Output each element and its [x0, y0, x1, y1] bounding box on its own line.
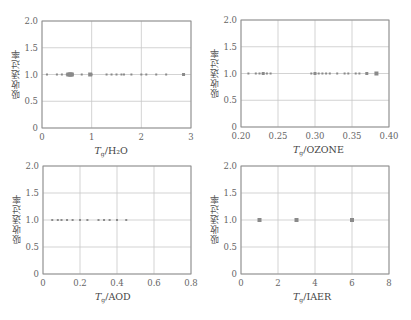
- data-point: [295, 218, 299, 222]
- y-tick-label: 1.0: [223, 215, 237, 225]
- x-tick-label: 8: [386, 278, 391, 288]
- data-point: [350, 218, 354, 222]
- y-tick-label: 1.5: [223, 188, 237, 198]
- x-axis-label: Tg/IAER: [293, 291, 331, 303]
- y-axis-label: 吸收透过率: [207, 194, 220, 244]
- data-point: [258, 218, 262, 222]
- x-tick-label: 2: [275, 278, 280, 288]
- plot-area-iaer: 00.51.01.52.002468: [0, 0, 411, 320]
- x-tick-label: 6: [349, 278, 354, 288]
- x-tick-label: 4: [312, 278, 317, 288]
- y-tick-label: 0: [232, 269, 237, 279]
- x-tick-label: 0: [238, 278, 243, 288]
- subplot-iaer: 00.51.01.52.002468吸收透过率Tg/IAER: [0, 0, 411, 320]
- y-tick-label: 2.0: [223, 161, 237, 171]
- y-tick-label: 0.5: [223, 242, 237, 252]
